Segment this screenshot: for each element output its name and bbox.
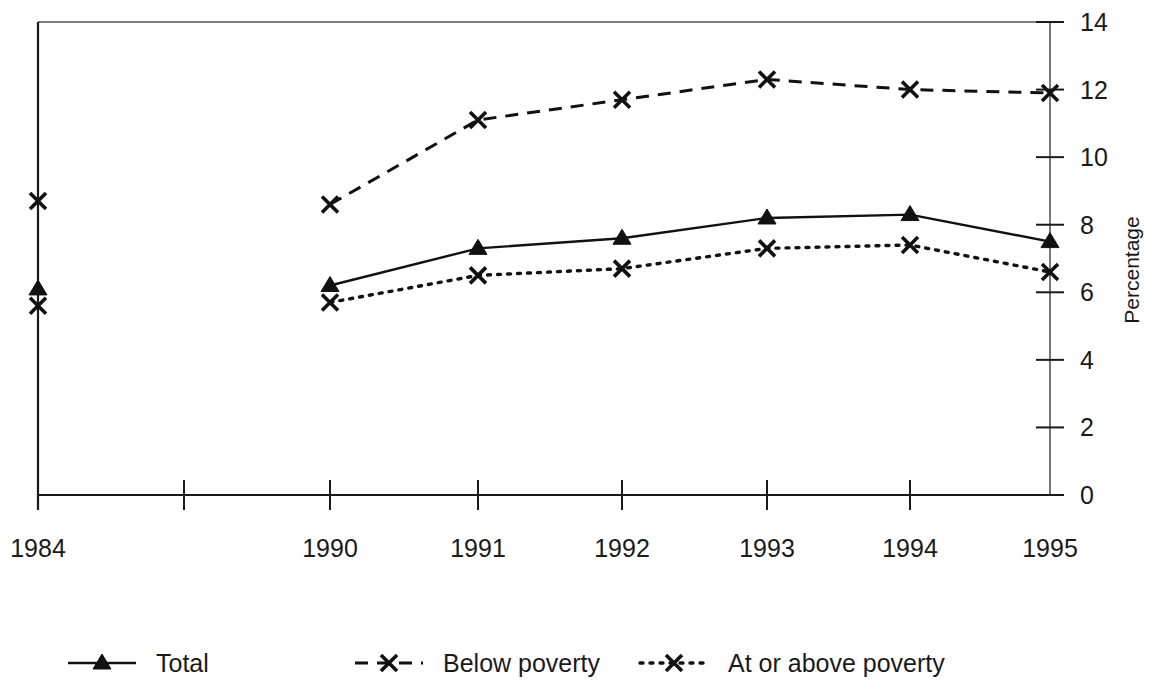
chart-figure: 02468101214 1984199019911992199319941995… xyxy=(0,0,1165,690)
data-series-group xyxy=(29,71,1059,313)
data-point-marker-x xyxy=(470,267,486,283)
data-series xyxy=(30,237,1058,314)
x-tick-label: 1992 xyxy=(594,534,650,562)
legend-label: At or above poverty xyxy=(728,649,945,677)
y-tick-label: 4 xyxy=(1080,346,1094,374)
y-axis-title: Percentage xyxy=(1120,216,1143,323)
y-axis: 02468101214 xyxy=(1036,8,1108,509)
data-point-marker-triangle xyxy=(758,209,776,224)
data-series xyxy=(30,71,1058,212)
data-point-marker-x xyxy=(470,112,486,128)
x-axis-labels: 1984199019911992199319941995 xyxy=(10,534,1078,562)
x-tick-label: 1994 xyxy=(882,534,938,562)
data-point-marker-x xyxy=(322,294,338,310)
x-tick-label: 1995 xyxy=(1022,534,1078,562)
x-tick-label: 1984 xyxy=(10,534,66,562)
y-tick-label: 6 xyxy=(1080,278,1094,306)
y-tick-label: 14 xyxy=(1080,8,1108,36)
line-chart: 02468101214 1984199019911992199319941995… xyxy=(0,0,1165,690)
data-point-marker-triangle xyxy=(29,280,47,295)
series-line xyxy=(330,79,1050,204)
chart-legend: TotalBelow povertyAt or above poverty xyxy=(68,649,945,677)
legend-label: Below poverty xyxy=(443,649,601,677)
data-point-marker-x xyxy=(322,196,338,212)
legend-item: At or above poverty xyxy=(640,649,945,677)
data-point-marker-triangle xyxy=(901,206,919,221)
legend-item: Total xyxy=(68,649,209,677)
data-point-marker-x xyxy=(759,240,775,256)
y-tick-label: 12 xyxy=(1080,76,1108,104)
legend-item: Below poverty xyxy=(355,649,601,677)
y-tick-label: 10 xyxy=(1080,143,1108,171)
series-line xyxy=(330,245,1050,302)
x-tick-label: 1991 xyxy=(450,534,506,562)
x-tick-label: 1993 xyxy=(739,534,795,562)
y-tick-label: 2 xyxy=(1080,413,1094,441)
x-tick-label: 1990 xyxy=(302,534,358,562)
y-tick-label: 0 xyxy=(1080,481,1094,509)
series-line xyxy=(330,215,1050,286)
legend-label: Total xyxy=(156,649,209,677)
y-tick-label: 8 xyxy=(1080,211,1094,239)
data-point-marker-triangle xyxy=(93,654,111,669)
